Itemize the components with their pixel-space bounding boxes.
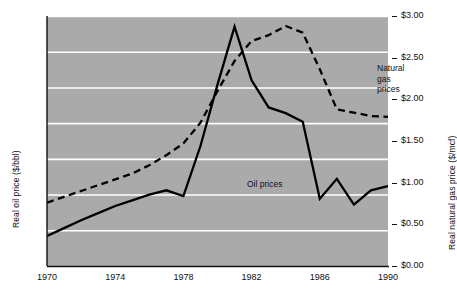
y-tick-mark-right: [392, 99, 397, 100]
y-tick-mark-right: [392, 266, 397, 267]
y-tick-right-100: $1.00: [401, 177, 424, 187]
y-tick-right-250: $2.50: [401, 52, 424, 62]
plot-area: Natural gas prices Oil prices: [47, 16, 388, 266]
y-tick-mark-right: [392, 16, 397, 17]
y-tick-mark-right: [392, 224, 397, 225]
y-tick-right-000: $0.00: [401, 260, 424, 270]
series-lines: [47, 26, 388, 236]
x-tick-1986: 1986: [310, 272, 330, 282]
x-tick-1990: 1990: [378, 272, 398, 282]
plot-svg: [47, 16, 388, 266]
x-tick-1982: 1982: [242, 272, 262, 282]
y-axis-right-ticks: $0.00$0.50$1.00$1.50$2.00$2.50$3.00: [392, 0, 454, 299]
y-axis-left-ticks: $5$10$15$20$25$30$35$40: [0, 0, 44, 299]
series-line-oil-prices: [47, 27, 388, 236]
y-tick-right-200: $2.00: [401, 93, 424, 103]
series-label-natural-gas: Natural gas prices: [377, 63, 404, 95]
y-tick-right-150: $1.50: [401, 135, 424, 145]
x-tick-1978: 1978: [173, 272, 193, 282]
x-tick-1970: 1970: [37, 272, 57, 282]
y-tick-mark-right: [392, 141, 397, 142]
y-tick-mark-right: [392, 183, 397, 184]
gridlines: [47, 17, 388, 231]
y-tick-mark-right: [392, 58, 397, 59]
y-tick-right-050: $0.50: [401, 218, 424, 228]
y-tick-right-300: $3.00: [401, 10, 424, 20]
series-label-oil: Oil prices: [247, 179, 282, 190]
x-tick-1974: 1974: [105, 272, 125, 282]
